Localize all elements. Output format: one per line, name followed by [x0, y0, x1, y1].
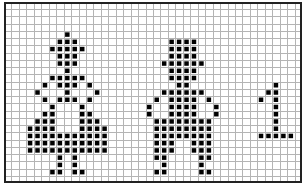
- filled-cell: [177, 97, 182, 102]
- filled-cell: [65, 32, 70, 37]
- filled-cell: [58, 141, 63, 146]
- filled-cell: [207, 170, 212, 175]
- filled-cell: [154, 97, 159, 102]
- filled-cell: [87, 134, 92, 139]
- filled-cell: [28, 141, 33, 146]
- filled-cell: [184, 134, 189, 139]
- filled-cell: [192, 40, 197, 45]
- filled-cell: [43, 134, 48, 139]
- filled-cell: [87, 97, 92, 102]
- filled-cell: [65, 47, 70, 52]
- filled-cell: [147, 105, 152, 110]
- filled-cell: [58, 47, 63, 52]
- filled-cell: [80, 105, 85, 110]
- filled-cell: [58, 170, 63, 175]
- filled-cell: [184, 90, 189, 95]
- filled-cell: [80, 126, 85, 131]
- filled-cell: [80, 170, 85, 175]
- filled-cell: [169, 97, 174, 102]
- filled-cell: [58, 40, 63, 45]
- filled-cell: [80, 141, 85, 146]
- filled-cell: [87, 141, 92, 146]
- filled-cell: [169, 141, 174, 146]
- filled-cell: [147, 112, 152, 117]
- filled-cell: [65, 134, 70, 139]
- filled-cell: [207, 134, 212, 139]
- filled-cell: [58, 148, 63, 153]
- filled-cell: [65, 40, 70, 45]
- pixel-pattern-grid: [4, 2, 302, 183]
- filled-cell: [73, 134, 78, 139]
- filled-cell: [43, 148, 48, 153]
- filled-cell: [35, 90, 40, 95]
- filled-cell: [184, 119, 189, 124]
- filled-cell: [80, 148, 85, 153]
- filled-cell: [199, 163, 204, 168]
- filled-cell: [65, 83, 70, 88]
- filled-cell: [184, 40, 189, 45]
- filled-cell: [58, 54, 63, 59]
- filled-cell: [207, 126, 212, 131]
- filled-cell: [199, 126, 204, 131]
- filled-cell: [199, 170, 204, 175]
- filled-cell: [65, 97, 70, 102]
- filled-cell: [177, 134, 182, 139]
- filled-cell: [274, 90, 279, 95]
- filled-cell: [192, 69, 197, 74]
- filled-cell: [266, 134, 271, 139]
- filled-cell: [184, 112, 189, 117]
- filled-cell: [169, 47, 174, 52]
- filled-cell: [95, 119, 100, 124]
- filled-cell: [162, 148, 167, 153]
- filled-cell: [207, 119, 212, 124]
- filled-cell: [58, 134, 63, 139]
- filled-cell: [184, 76, 189, 81]
- filled-cell: [192, 119, 197, 124]
- filled-cell: [169, 76, 174, 81]
- filled-cell: [50, 47, 55, 52]
- filled-cell: [192, 47, 197, 52]
- filled-cell: [177, 112, 182, 117]
- filled-cell: [50, 105, 55, 110]
- filled-cell: [87, 112, 92, 117]
- filled-cell: [177, 119, 182, 124]
- filled-cell: [102, 148, 107, 153]
- filled-cell: [184, 126, 189, 131]
- filled-cell: [199, 148, 204, 153]
- filled-cell: [177, 83, 182, 88]
- filled-cell: [192, 105, 197, 110]
- filled-cell: [192, 126, 197, 131]
- filled-cell: [154, 148, 159, 153]
- filled-cell: [28, 126, 33, 131]
- filled-cell: [162, 61, 167, 66]
- filled-cell: [65, 69, 70, 74]
- filled-cell: [95, 90, 100, 95]
- grid-canvas: [4, 2, 302, 183]
- filled-cell: [73, 76, 78, 81]
- filled-cell: [102, 126, 107, 131]
- filled-cell: [73, 47, 78, 52]
- filled-cell: [169, 90, 174, 95]
- filled-cell: [50, 76, 55, 81]
- filled-cell: [35, 126, 40, 131]
- filled-cell: [281, 134, 286, 139]
- filled-cell: [192, 148, 197, 153]
- filled-cell: [154, 134, 159, 139]
- filled-cell: [184, 47, 189, 52]
- filled-cell: [207, 141, 212, 146]
- filled-cell: [192, 97, 197, 102]
- filled-cell: [192, 141, 197, 146]
- filled-cell: [43, 112, 48, 117]
- filled-cell: [162, 141, 167, 146]
- filled-cell: [184, 54, 189, 59]
- filled-cell: [154, 155, 159, 160]
- filled-cell: [274, 134, 279, 139]
- filled-cell: [199, 61, 204, 66]
- filled-cell: [87, 119, 92, 124]
- filled-cell: [50, 112, 55, 117]
- filled-cell: [154, 141, 159, 146]
- filled-cell: [87, 83, 92, 88]
- filled-cell: [102, 134, 107, 139]
- filled-cell: [266, 90, 271, 95]
- filled-cell: [274, 83, 279, 88]
